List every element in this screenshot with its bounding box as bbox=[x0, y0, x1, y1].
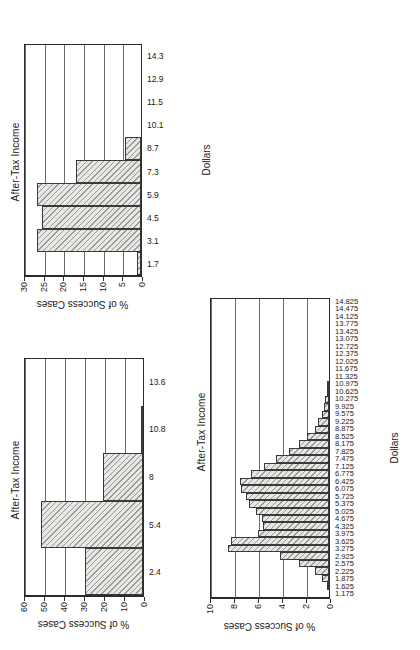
bar-slot bbox=[211, 522, 329, 529]
x-tick-label: 5.4 bbox=[149, 520, 161, 529]
x-tick-label: 8.525 bbox=[335, 433, 354, 441]
bar-chart-after-tax-income-fine: After-Tax Income 0246810 1.1751.6251.875… bbox=[196, 232, 414, 632]
y-axis-title-text: % of Success Cases bbox=[37, 299, 129, 310]
bar-slot bbox=[25, 359, 143, 406]
bar-slot bbox=[25, 501, 143, 548]
bar-slot bbox=[211, 411, 329, 418]
x-tick-cell: 8.175 bbox=[333, 441, 393, 449]
plot-area: 051015202530 1.73.14.55.97.38.710.111.51… bbox=[24, 44, 142, 276]
y-tick bbox=[103, 277, 104, 281]
x-tick-cell: 11.325 bbox=[333, 373, 393, 381]
bar bbox=[327, 388, 329, 395]
x-tick-cell: 12.375 bbox=[333, 351, 393, 359]
bar-slot bbox=[211, 306, 329, 313]
bar-slot bbox=[211, 478, 329, 485]
y-tick bbox=[144, 597, 145, 601]
x-tick-cell: 9.225 bbox=[333, 418, 393, 426]
plot-area: 0102030405060 2.45.4810.813.6 % of Succe… bbox=[24, 358, 144, 596]
x-tick-cell: 8.7 bbox=[145, 137, 205, 160]
bar-slot bbox=[211, 388, 329, 395]
bar bbox=[327, 582, 329, 589]
y-tick-label: 30 bbox=[80, 602, 89, 612]
x-tick-cell: 14.825 bbox=[333, 298, 393, 306]
bar bbox=[85, 548, 143, 595]
y-axis-title-text: % of Success Cases bbox=[38, 619, 130, 630]
bar bbox=[315, 567, 329, 574]
chart-histogram-container: After-Tax Income 0246810 1.1751.6251.875… bbox=[196, 232, 414, 632]
x-tick-cell: 12.725 bbox=[333, 343, 393, 351]
x-tick-cell: 7.825 bbox=[333, 448, 393, 456]
x-tick-cell: 4.675 bbox=[333, 516, 393, 524]
x-tick-label: 2.925 bbox=[335, 553, 354, 561]
x-tick-label: 13.425 bbox=[335, 328, 358, 336]
y-tick bbox=[282, 599, 283, 603]
bar-slot bbox=[25, 45, 141, 68]
x-tick-label: 4.5 bbox=[147, 214, 159, 223]
bar bbox=[318, 418, 329, 425]
y-axis bbox=[210, 598, 330, 599]
chart-bottom-left-container: After-Tax Income 0102030405060 2.45.4810… bbox=[10, 330, 206, 630]
x-tick-cell: 13.075 bbox=[333, 336, 393, 344]
bar-slot bbox=[25, 206, 141, 229]
bar-chart-after-tax-income-coarse: After-Tax Income 051015202530 1.73.14.55… bbox=[10, 14, 206, 310]
x-tick-label: 9.225 bbox=[335, 418, 354, 426]
y-tick bbox=[83, 277, 84, 281]
bar bbox=[322, 575, 329, 582]
bar bbox=[41, 501, 143, 548]
y-tick-label: 5 bbox=[118, 282, 127, 287]
x-tick-label: 10.625 bbox=[335, 388, 358, 396]
bar-slot bbox=[211, 567, 329, 574]
bar bbox=[125, 137, 141, 160]
bar-slot bbox=[211, 455, 329, 462]
x-tick-cell: 2.575 bbox=[333, 561, 393, 569]
bar bbox=[322, 411, 329, 418]
x-tick-label: 12.025 bbox=[335, 358, 358, 366]
x-tick-label: 5.725 bbox=[335, 493, 354, 501]
x-tick-cell: 10.275 bbox=[333, 396, 393, 404]
x-tick-label: 10.8 bbox=[149, 425, 166, 434]
x-tick-cell: 13.425 bbox=[333, 328, 393, 336]
x-tick-label: 2.4 bbox=[149, 568, 161, 577]
y-axis-title-text: % of Success Cases bbox=[224, 621, 316, 632]
bar-series bbox=[211, 299, 329, 597]
x-tick-label: 7.825 bbox=[335, 448, 354, 456]
x-tick-label: 12.375 bbox=[335, 350, 358, 358]
bar-slot bbox=[211, 373, 329, 380]
x-tick-label: 12.725 bbox=[335, 343, 358, 351]
bar-slot bbox=[211, 552, 329, 559]
x-tick-cell: 4.5 bbox=[145, 206, 205, 229]
y-tick-label: 0 bbox=[326, 604, 335, 609]
x-tick-label: 3.275 bbox=[335, 545, 354, 553]
y-tick bbox=[24, 597, 25, 601]
plot-panel bbox=[24, 358, 144, 596]
x-tick-cell: 4.325 bbox=[333, 523, 393, 531]
y-tick bbox=[124, 597, 125, 601]
x-tick-labels: 1.1751.6251.8752.2252.5752.9253.2753.625… bbox=[333, 298, 393, 598]
x-tick-cell: 10.625 bbox=[333, 388, 393, 396]
bar-slot bbox=[211, 359, 329, 366]
x-tick-label: 10.1 bbox=[147, 121, 164, 130]
bar-slot bbox=[25, 252, 141, 275]
bar bbox=[325, 396, 329, 403]
x-tick-cell: 6.775 bbox=[333, 471, 393, 479]
x-tick-label: 14.3 bbox=[147, 51, 164, 60]
y-tick bbox=[64, 597, 65, 601]
bar bbox=[307, 433, 329, 440]
x-tick-label: 11.675 bbox=[335, 365, 358, 373]
y-tick-label: 4 bbox=[278, 604, 287, 609]
x-tick-cell: 6.075 bbox=[333, 486, 393, 494]
x-tick-label: 7.3 bbox=[147, 167, 159, 176]
y-tick-label: 10 bbox=[120, 602, 129, 612]
x-tick-cell: 5.9 bbox=[145, 183, 205, 206]
x-tick-label: 14.125 bbox=[335, 313, 358, 321]
bar bbox=[251, 470, 329, 477]
x-tick-cell: 10.975 bbox=[333, 381, 393, 389]
x-tick-cell: 3.625 bbox=[333, 538, 393, 546]
bar-slot bbox=[211, 560, 329, 567]
bar-slot bbox=[25, 91, 141, 114]
y-tick-label: 25 bbox=[39, 282, 48, 292]
x-tick-cell: 7.475 bbox=[333, 456, 393, 464]
x-tick-cell: 9.925 bbox=[333, 403, 393, 411]
x-tick-label: 2.575 bbox=[335, 560, 354, 568]
bar-slot bbox=[211, 493, 329, 500]
